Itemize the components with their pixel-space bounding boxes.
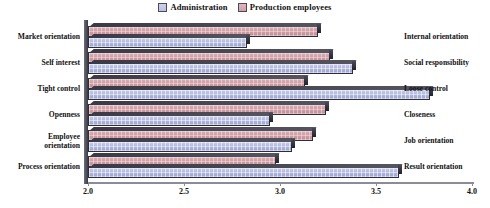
legend-item-administration: Administration xyxy=(158,2,227,12)
x-axis-tick xyxy=(184,182,185,186)
row-label-right: Result orientation xyxy=(404,162,490,171)
legend-swatch-icon xyxy=(158,3,167,12)
row-label-left: Market orientation xyxy=(0,32,80,41)
bar-administration xyxy=(88,141,292,152)
x-axis-tick-label: 2.5 xyxy=(179,187,189,196)
row-label-left: Tight control xyxy=(0,84,80,93)
bar-administration xyxy=(88,37,247,48)
legend-label: Administration xyxy=(170,2,227,12)
bar-administration xyxy=(88,167,399,178)
x-axis-tick xyxy=(88,182,89,186)
x-axis-tick-label: 4.0 xyxy=(467,187,477,196)
x-axis-tick xyxy=(472,182,473,186)
legend-swatch-icon xyxy=(238,3,247,12)
row-label-right: Loose control xyxy=(404,84,490,93)
row-label-left: Process orientation xyxy=(0,162,80,171)
plot-area xyxy=(88,20,472,182)
row-label-right: Internal orientation xyxy=(404,32,490,41)
bar-administration xyxy=(88,89,430,100)
row-label-left: Self interest xyxy=(0,58,80,67)
x-axis-tick-label: 3.5 xyxy=(371,187,381,196)
x-axis-tick-label: 2.0 xyxy=(83,187,93,196)
bar-administration xyxy=(88,63,353,74)
bar-administration xyxy=(88,115,270,126)
semantic-differential-bar-chart: Administration Production employees 2.02… xyxy=(0,0,490,208)
row-label-right: Closeness xyxy=(404,110,490,119)
row-label-right: Social responsibility xyxy=(404,58,490,67)
row-label-left: Employee orientation xyxy=(0,132,80,150)
row-label-left: Openness xyxy=(0,110,80,119)
x-axis-tick xyxy=(280,182,281,186)
legend-label: Production employees xyxy=(250,2,332,12)
x-axis-tick-label: 3.0 xyxy=(275,187,285,196)
legend-item-production-employees: Production employees xyxy=(238,2,332,12)
x-axis-line xyxy=(88,182,474,184)
x-axis-tick xyxy=(376,182,377,186)
row-label-right: Job orientation xyxy=(404,136,490,145)
chart-legend: Administration Production employees xyxy=(0,2,490,12)
